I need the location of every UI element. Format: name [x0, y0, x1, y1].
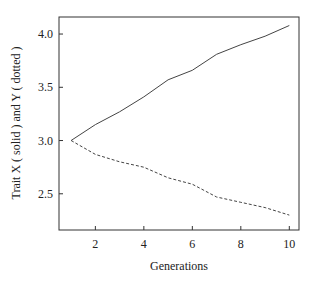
- x-tick-label: 2: [92, 237, 98, 251]
- y-axis-title: Trait X ( solid ) and Y ( dotted ): [9, 47, 23, 200]
- x-axis-title: Generations: [150, 259, 208, 273]
- series-line-trait-y: [71, 141, 289, 216]
- x-tick-label: 8: [238, 237, 244, 251]
- x-tick-label: 6: [189, 237, 195, 251]
- series-group: [71, 26, 289, 216]
- y-tick-label: 3.0: [38, 134, 53, 148]
- series-line-trait-x: [71, 26, 289, 141]
- x-tick-label: 4: [141, 237, 147, 251]
- plot-frame: [59, 17, 299, 230]
- y-tick-label: 2.5: [38, 187, 53, 201]
- y-tick-label: 4.0: [38, 27, 53, 41]
- line-chart: 246810 2.53.03.54.0 Generations Trait X …: [0, 0, 316, 285]
- x-tick-label: 10: [283, 237, 295, 251]
- y-tick-label: 3.5: [38, 80, 53, 94]
